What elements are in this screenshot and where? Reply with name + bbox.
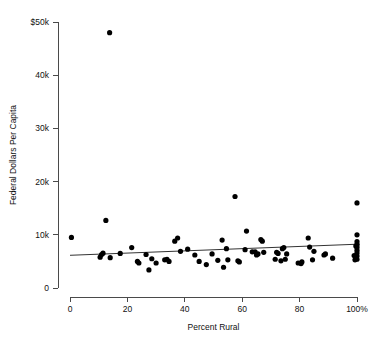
y-axis-title: Federal Dollars Per Capita <box>8 105 18 205</box>
data-point <box>192 252 197 257</box>
data-point <box>221 265 226 270</box>
x-axis-ticks: 020406080100% <box>68 297 369 314</box>
data-point <box>108 255 113 260</box>
y-tick-label: 10k <box>35 230 49 240</box>
data-point <box>283 257 288 262</box>
x-axis: 020406080100% <box>68 297 369 314</box>
data-point <box>255 251 260 256</box>
data-point <box>281 245 286 250</box>
data-point <box>215 258 220 263</box>
x-tick-label: 60 <box>237 304 247 314</box>
data-point <box>143 252 148 257</box>
data-point <box>307 244 312 249</box>
data-point <box>354 257 359 262</box>
data-point <box>275 251 280 256</box>
x-axis-title: Percent Rural <box>188 322 240 332</box>
data-point <box>129 245 134 250</box>
y-axis-ticks: 010k20k30k40k$50k <box>31 17 58 293</box>
y-tick-label: $50k <box>31 17 50 27</box>
data-point <box>299 259 304 264</box>
x-tick-label: 100% <box>346 304 368 314</box>
y-tick-label: 20k <box>35 177 49 187</box>
data-point <box>136 260 141 265</box>
chart-canvas: 010k20k30k40k$50k 020406080100% Percent … <box>0 0 387 353</box>
data-point <box>154 260 159 265</box>
regression-trendline <box>70 244 360 255</box>
data-point <box>225 257 230 262</box>
data-point <box>306 235 311 240</box>
data-points-group <box>69 30 360 272</box>
scatter-plot-figure: 010k20k30k40k$50k 020406080100% Percent … <box>0 0 387 353</box>
data-point <box>311 249 316 254</box>
data-point <box>149 256 154 261</box>
y-axis: 010k20k30k40k$50k <box>31 17 58 293</box>
data-point <box>166 259 171 264</box>
data-point <box>354 200 359 205</box>
data-point <box>178 249 183 254</box>
data-point <box>209 251 214 256</box>
data-point <box>284 251 289 256</box>
data-point <box>100 251 105 256</box>
data-point <box>204 262 209 267</box>
data-point <box>146 267 151 272</box>
data-point <box>69 235 74 240</box>
data-point <box>330 256 335 261</box>
data-point <box>354 232 359 237</box>
data-point <box>260 239 265 244</box>
data-point <box>118 251 123 256</box>
x-tick-label: 40 <box>180 304 190 314</box>
y-tick-label: 0 <box>44 283 49 293</box>
x-tick-label: 80 <box>295 304 305 314</box>
y-tick-label: 30k <box>35 123 49 133</box>
data-point <box>232 194 237 199</box>
data-point <box>261 250 266 255</box>
y-tick-label: 40k <box>35 70 49 80</box>
data-point <box>103 218 108 223</box>
data-point <box>220 238 225 243</box>
data-point <box>323 251 328 256</box>
data-point <box>244 228 249 233</box>
data-point <box>310 257 315 262</box>
data-point <box>237 259 242 264</box>
x-tick-label: 20 <box>123 304 133 314</box>
data-point <box>224 246 229 251</box>
data-point <box>107 30 112 35</box>
data-point <box>197 259 202 264</box>
data-point <box>273 257 278 262</box>
data-point <box>175 235 180 240</box>
x-tick-label: 0 <box>68 304 73 314</box>
data-point <box>242 247 247 252</box>
data-point <box>185 247 190 252</box>
